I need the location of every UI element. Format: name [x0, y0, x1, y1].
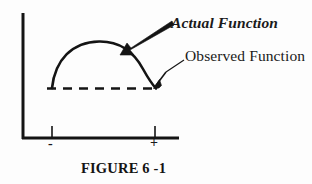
observed-function-label: Observed Function: [185, 48, 305, 64]
actual-function-curve: [52, 41, 156, 88]
figure-caption: FIGURE 6 -1: [0, 160, 247, 177]
actual-function-arrow: [120, 21, 174, 55]
figure-container: Actual Function Observed Function - + FI…: [0, 0, 312, 184]
observed-function-arrow: [154, 60, 185, 89]
x-tick-label-plus: +: [150, 136, 158, 150]
x-tick-label-minus: -: [48, 137, 53, 151]
actual-function-label: Actual Function: [171, 15, 278, 31]
